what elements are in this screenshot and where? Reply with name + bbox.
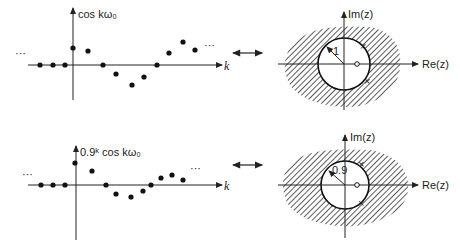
re-label: Re(z) [422,179,449,191]
bottom-xlabel: k [224,179,230,193]
diagram-canvas: cos kω₀ k ··· ··· 1 Im(z) Re(z) × × 0.9ᵏ… [0,0,460,250]
im-label: Im(z) [350,131,375,143]
top-sequence-plot: cos kω₀ k ··· ··· [15,8,230,100]
top-ylabel: cos kω₀ [78,8,117,20]
radius-label: 0.9 [332,164,347,176]
re-label: Re(z) [422,58,449,70]
sample-dots [37,39,197,87]
right-ellipsis: ··· [204,39,215,51]
bottom-ylabel: 0.9ᵏ cos kω₀ [80,146,141,158]
pole-marker-upper: × [360,40,366,52]
top-zplane: 1 Im(z) Re(z) × × [278,8,449,110]
top-xlabel: k [224,59,230,73]
right-ellipsis: ··· [190,162,201,174]
im-label: Im(z) [348,8,373,20]
pole-marker-lower: × [364,75,370,87]
bottom-zplane: 0.9 Im(z) Re(z) × × [278,131,449,238]
pole-marker-lower: × [358,197,364,209]
zero-marker [355,183,360,188]
left-ellipsis: ··· [22,168,33,180]
bottom-sequence-plot: 0.9ᵏ cos kω₀ k ··· ··· [22,146,230,240]
zero-marker [355,62,360,67]
sample-dots [38,160,185,199]
pole-marker-upper: × [358,158,364,170]
radius-label: 1 [333,45,339,57]
left-ellipsis: ··· [15,47,26,59]
